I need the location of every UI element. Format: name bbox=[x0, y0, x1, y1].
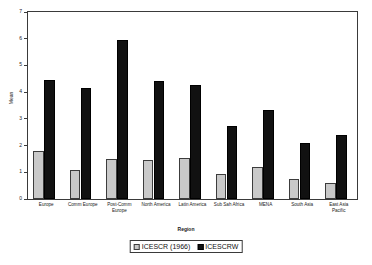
x-axis-tick-labels: EuropeComm EuropePost-Comm EuropeNorth A… bbox=[28, 202, 357, 224]
bar-icescrw[interactable] bbox=[190, 85, 201, 199]
y-axis-tick-label: 6 bbox=[19, 34, 22, 43]
bar-icescr-1966[interactable] bbox=[289, 179, 300, 199]
bar-icescrw[interactable] bbox=[117, 40, 128, 199]
bar-group bbox=[289, 12, 311, 199]
bar-icescrw[interactable] bbox=[300, 143, 311, 199]
y-axis-tick-label: 3 bbox=[19, 114, 22, 123]
y-axis-tick-label: 1 bbox=[19, 167, 22, 176]
legend-swatch-light-gray-square bbox=[134, 244, 140, 250]
bar-group bbox=[106, 12, 128, 199]
bar-icescr-1966[interactable] bbox=[252, 167, 263, 199]
y-axis-tick-label: 0 bbox=[19, 194, 22, 203]
bar-icescrw[interactable] bbox=[81, 88, 92, 199]
bar-group bbox=[70, 12, 92, 199]
bars-container bbox=[28, 12, 357, 199]
legend-label: ICESCR (1966) bbox=[142, 243, 191, 251]
bar-icescrw[interactable] bbox=[154, 81, 165, 199]
bar-chart-figure: 01234567 Mean EuropeComm EuropePost-Comm… bbox=[0, 0, 372, 265]
bar-icescrw[interactable] bbox=[44, 80, 55, 199]
y-axis-title: Mean bbox=[8, 78, 14, 118]
bar-group bbox=[179, 12, 201, 199]
bar-icescr-1966[interactable] bbox=[70, 170, 81, 199]
bar-icescrw[interactable] bbox=[227, 126, 238, 199]
x-axis-title: Region bbox=[0, 226, 372, 232]
bar-icescr-1966[interactable] bbox=[179, 158, 190, 199]
bar-group bbox=[252, 12, 274, 199]
bar-group bbox=[143, 12, 165, 199]
y-axis-tick-label: 2 bbox=[19, 141, 22, 150]
bar-group bbox=[33, 12, 55, 199]
bar-icescrw[interactable] bbox=[336, 135, 347, 199]
bar-icescrw[interactable] bbox=[263, 110, 274, 199]
bar-group bbox=[216, 12, 238, 199]
y-axis-tick-label: 7 bbox=[19, 7, 22, 16]
bar-icescr-1966[interactable] bbox=[325, 183, 336, 199]
bar-group bbox=[325, 12, 347, 199]
y-axis-tick-label: 5 bbox=[19, 60, 22, 69]
x-axis-tick-label: East Asia Pacific bbox=[316, 202, 361, 213]
bar-icescr-1966[interactable] bbox=[33, 151, 44, 199]
bar-icescr-1966[interactable] bbox=[106, 159, 117, 199]
y-axis-tick-label: 4 bbox=[19, 87, 22, 96]
bar-icescr-1966[interactable] bbox=[216, 174, 227, 199]
legend-item[interactable]: ICESCRW bbox=[197, 243, 238, 251]
legend: ICESCR (1966)ICESCRW bbox=[130, 240, 243, 253]
bar-icescr-1966[interactable] bbox=[143, 160, 154, 199]
legend-label: ICESCRW bbox=[205, 243, 238, 251]
legend-item[interactable]: ICESCR (1966) bbox=[134, 243, 191, 251]
legend-swatch-black-square bbox=[197, 244, 203, 250]
